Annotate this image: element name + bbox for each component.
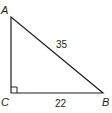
side-label-ab: 35 (56, 39, 68, 50)
right-angle-marker (11, 87, 17, 93)
side-label-cb: 22 (55, 98, 67, 109)
vertex-label-b: B (102, 96, 109, 108)
vertex-label-c: C (1, 96, 9, 108)
right-triangle-diagram: A C B 35 22 (0, 0, 112, 113)
vertex-label-a: A (0, 4, 8, 16)
triangle-abc (11, 17, 103, 93)
